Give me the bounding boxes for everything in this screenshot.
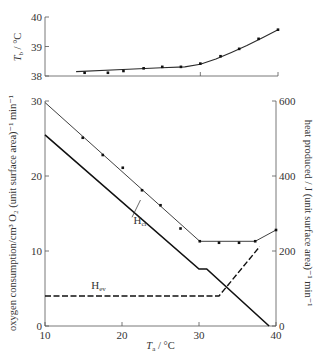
- bottom-left-ytick-label: 10: [31, 245, 43, 257]
- top-data-point: [199, 62, 202, 65]
- bottom-xtick-label: 20: [117, 329, 129, 341]
- top-data-point: [122, 70, 125, 73]
- top-data-point: [180, 66, 183, 69]
- hev-label: Hev: [91, 279, 106, 293]
- top-fit-curve: [76, 30, 278, 72]
- bottom-xtick-label: 30: [194, 329, 206, 341]
- total-heat-line: [45, 103, 276, 242]
- oxygen-data-point: [275, 229, 278, 232]
- oxygen-data-point: [121, 166, 124, 169]
- oxygen-data-point: [218, 241, 221, 244]
- oxygen-data-point: [179, 227, 182, 230]
- bottom-left-y-axis-label: oxygen consumption/cm³ O₂ (unit surface …: [7, 95, 19, 331]
- hcr-line: [45, 135, 269, 326]
- oxygen-data-point: [238, 241, 241, 244]
- top-data-point: [83, 71, 86, 74]
- oxygen-data-point: [141, 189, 144, 192]
- top-data-point: [277, 28, 280, 31]
- top-data-point: [107, 71, 110, 74]
- top-ytick-label: 40: [31, 11, 43, 23]
- bottom-right-ytick-label: 200: [279, 245, 296, 257]
- hcr-label: Hcr: [134, 214, 148, 228]
- bottom-xtick-label: 10: [40, 329, 52, 341]
- bottom-right-ytick-label: 600: [279, 95, 296, 107]
- top-panel-body-temperature: 383940Tb / °C: [12, 11, 279, 82]
- top-data-point: [161, 66, 164, 69]
- oxygen-data-point: [159, 204, 162, 207]
- bottom-panel-heat-oxygen: 0102030020040060010203040HcrHevTa / °Cox…: [7, 95, 314, 353]
- bottom-xtick-label: 40: [271, 329, 283, 341]
- top-y-axis-label: Tb / °C: [12, 33, 25, 62]
- bottom-right-y-axis-label: heat produced / J (unit surface area)⁻¹ …: [302, 120, 314, 307]
- top-data-point: [257, 38, 260, 41]
- oxygen-data-point: [198, 240, 201, 243]
- bottom-left-ytick-label: 20: [31, 170, 43, 182]
- top-data-point: [142, 67, 145, 70]
- oxygen-data-point: [101, 154, 104, 157]
- oxygen-data-point: [81, 136, 84, 139]
- top-data-point: [238, 48, 241, 51]
- top-data-point: [219, 55, 222, 58]
- top-ytick-label: 38: [31, 70, 43, 82]
- bottom-x-axis-label: Ta / °C: [146, 340, 174, 353]
- bottom-left-ytick-label: 30: [31, 95, 43, 107]
- oxygen-data-point: [254, 240, 257, 243]
- chart-figure: 383940Tb / °C 0102030020040060010203040H…: [0, 0, 326, 361]
- top-ytick-label: 39: [31, 41, 43, 53]
- bottom-right-ytick-label: 400: [279, 170, 296, 182]
